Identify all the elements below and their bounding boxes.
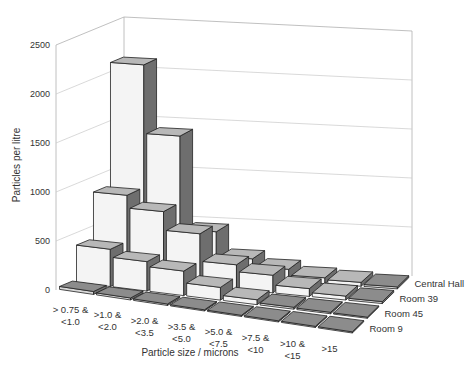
series-label: Room 45 bbox=[385, 308, 424, 319]
x-category-label: >7.5 &<10 bbox=[242, 332, 270, 355]
y-tick-label: 1500 bbox=[30, 138, 50, 148]
y-tick-label: 2000 bbox=[30, 89, 50, 99]
series-label: Central Hall bbox=[415, 278, 465, 289]
bar-front-face bbox=[150, 267, 184, 296]
y-tick-label: 500 bbox=[35, 236, 50, 246]
chart-3d-column: 05001000150020002500 > 0.75 &<1.0>1.0 &<… bbox=[0, 0, 470, 373]
x-category-label: >3.5 &<5.0 bbox=[168, 321, 196, 344]
bars bbox=[60, 57, 409, 333]
x-category-label: > 0.75 &<1.0 bbox=[53, 304, 89, 327]
x-category-label: >1.0 &<2.0 bbox=[94, 309, 122, 332]
bar-front-face bbox=[77, 245, 111, 286]
x-category-label: >2.0 &<3.5 bbox=[131, 315, 159, 338]
x-category-label: >10 &<15 bbox=[280, 338, 306, 361]
left-wall-top bbox=[56, 17, 124, 45]
bar-front-face bbox=[113, 257, 147, 291]
y-tick-label: 2500 bbox=[30, 40, 50, 50]
gridline-back-wall bbox=[124, 115, 412, 129]
series-label: Room 9 bbox=[370, 323, 403, 334]
series-label: Room 39 bbox=[400, 293, 439, 304]
x-axis-title: Particle size / microns bbox=[141, 347, 238, 358]
y-tick-label: 0 bbox=[45, 285, 50, 295]
y-axis-title: Particles per litre bbox=[11, 127, 22, 202]
gridline-back-wall bbox=[124, 66, 412, 80]
y-axis-ticks: 05001000150020002500 bbox=[30, 40, 50, 295]
y-tick-label: 1000 bbox=[30, 187, 50, 197]
x-category-label: >15 bbox=[321, 343, 337, 354]
x-category-label: >5.0 &<7.5 bbox=[205, 326, 233, 349]
back-wall-top bbox=[124, 17, 412, 31]
